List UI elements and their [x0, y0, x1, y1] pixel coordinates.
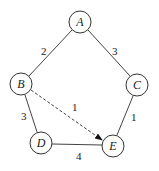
node-a: A: [69, 11, 91, 33]
edge-a-c: [88, 30, 130, 76]
edge-d-e: [52, 144, 102, 145]
node-e: E: [102, 135, 124, 157]
node-c-label: C: [133, 78, 142, 92]
weight-d-e: 4: [76, 150, 82, 162]
weight-b-d: 3: [21, 110, 27, 122]
edge-b-d: [25, 95, 37, 132]
weight-a-b: 2: [41, 45, 47, 57]
node-b-label: B: [17, 77, 25, 91]
edge-a-b: [29, 30, 72, 76]
weight-a-c: 3: [112, 45, 118, 57]
weight-c-e: 1: [131, 111, 137, 123]
node-e-label: E: [108, 139, 117, 153]
node-d-label: D: [36, 136, 46, 150]
node-b: B: [10, 73, 32, 95]
node-c: C: [126, 74, 148, 96]
node-a-label: A: [75, 15, 84, 29]
graph-diagram: 2 3 3 1 4 1 A B C D E: [0, 0, 159, 171]
node-d: D: [30, 132, 52, 154]
weight-b-e: 1: [72, 101, 78, 113]
